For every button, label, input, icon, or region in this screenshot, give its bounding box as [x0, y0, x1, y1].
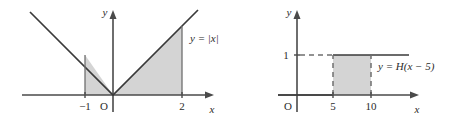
- x-axis-arrow-left: [205, 92, 214, 99]
- shaded-region-step: [333, 55, 371, 95]
- y-axis-arrow-right: [294, 10, 301, 19]
- x-axis-label-right: x: [414, 103, 420, 115]
- tick-label-x-10: 10: [366, 100, 378, 112]
- equation-label-absolute-value: y = |x|: [189, 32, 219, 44]
- tick-label-y-1: 1: [283, 49, 289, 61]
- x-axis-label-left: x: [209, 103, 215, 115]
- tick-label-x-2: 2: [179, 100, 185, 112]
- origin-label-left: O: [100, 100, 108, 112]
- math-figure-svg: −1 2 O x y y = |x|: [0, 0, 449, 130]
- tick-label-x-5: 5: [330, 100, 336, 112]
- tick-label-x-minus-1: −1: [79, 100, 91, 112]
- equation-label-heaviside: y = H(x − 5): [377, 60, 435, 73]
- y-axis-arrow-left: [110, 10, 117, 19]
- y-axis-label-right: y: [286, 6, 292, 18]
- x-axis-arrow-right: [410, 92, 419, 99]
- figure-container: −1 2 O x y y = |x|: [0, 0, 449, 130]
- panel-heaviside-step: 5 10 1 O x y y = H(x − 5): [278, 6, 435, 115]
- origin-label-right: O: [284, 100, 292, 112]
- panel-absolute-value: −1 2 O x y y = |x|: [22, 6, 219, 115]
- y-axis-label-left: y: [102, 6, 108, 18]
- shaded-region-left-branch: [85, 55, 113, 95]
